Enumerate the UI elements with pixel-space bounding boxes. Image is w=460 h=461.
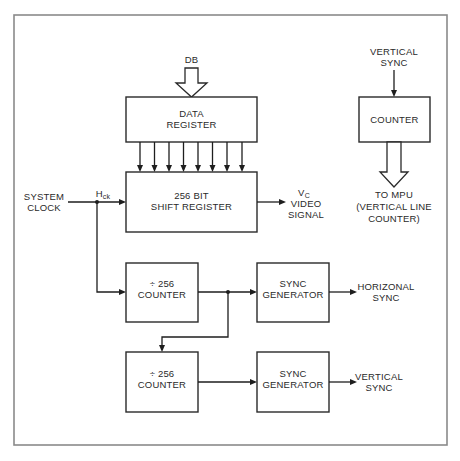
line-counter-label: COUNTER: [370, 114, 418, 125]
hck-label: Hck: [96, 188, 111, 200]
vertical-sync-out-line2: SYNC: [365, 382, 392, 393]
horizontal-sync-line2: SYNC: [372, 292, 399, 303]
shift-register-line2: SHIFT REGISTER: [151, 201, 232, 212]
sync-gen-h-line2: GENERATOR: [262, 289, 323, 300]
sync-gen-v-line1: SYNC: [279, 368, 306, 379]
system-clock-line2: CLOCK: [27, 202, 61, 213]
parallel-data-arrows: [137, 142, 245, 172]
system-clock-input: SYSTEM CLOCK Hck: [24, 188, 126, 213]
vertical-sync-in-line1: VERTICAL: [370, 46, 418, 57]
counter-to-vsync-wire: [198, 379, 257, 385]
db-input-arrow: DB: [176, 54, 207, 97]
video-timing-block-diagram: DB DATA REGISTER 256 BIT SHIFT REGISTER …: [0, 0, 460, 461]
vertical-sync-generator-block: SYNC GENERATOR: [257, 352, 329, 412]
data-register-line1: DATA: [179, 108, 204, 119]
shift-register-line1: 256 BIT: [174, 190, 209, 201]
db-label: DB: [185, 54, 199, 65]
to-mpu-output-arrow: TO MPU (VERTICAL LINE COUNTER): [356, 142, 432, 224]
shift-register-block: 256 BIT SHIFT REGISTER: [126, 172, 257, 232]
counter-v-line2: COUNTER: [138, 379, 186, 390]
video-signal-output: VC VIDEO SIGNAL: [257, 187, 324, 220]
to-mpu-line3: COUNTER): [368, 213, 420, 224]
signal-label: SIGNAL: [288, 209, 324, 220]
vertical-sync-output: VERTICAL SYNC: [329, 371, 403, 393]
horizontal-divide-counter-block: ÷ 256 COUNTER: [126, 263, 198, 322]
to-mpu-line1: TO MPU: [375, 189, 413, 200]
vertical-sync-input: VERTICAL SYNC: [370, 46, 418, 97]
vertical-sync-out-line1: VERTICAL: [355, 371, 403, 382]
data-register-line2: REGISTER: [166, 119, 216, 130]
horizontal-sync-line1: HORIZONAL: [357, 281, 414, 292]
horizontal-sync-output: HORIZONAL SYNC: [329, 281, 415, 303]
video-label: VIDEO: [291, 198, 322, 209]
data-register-block: DATA REGISTER: [126, 97, 257, 142]
vertical-divide-counter-block: ÷ 256 COUNTER: [126, 352, 198, 412]
sync-gen-v-line2: GENERATOR: [262, 379, 323, 390]
sync-gen-h-line1: SYNC: [279, 278, 306, 289]
counter-v-line1: ÷ 256: [150, 368, 175, 379]
to-mpu-line2: (VERTICAL LINE: [356, 201, 432, 212]
counter-h-line2: COUNTER: [138, 289, 186, 300]
system-clock-line1: SYSTEM: [24, 191, 64, 202]
horizontal-sync-generator-block: SYNC GENERATOR: [257, 263, 329, 322]
vertical-sync-in-line2: SYNC: [380, 57, 407, 68]
counter-h-line1: ÷ 256: [150, 278, 175, 289]
clock-branch-wire: [97, 202, 126, 295]
line-counter-block: COUNTER: [359, 97, 430, 142]
